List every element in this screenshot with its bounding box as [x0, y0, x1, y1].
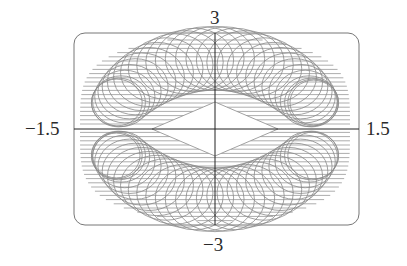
x-max-label: 1.5	[366, 119, 390, 138]
y-max-label: 3	[210, 8, 220, 27]
x-min-label: −1.5	[25, 119, 59, 138]
chart-plot-area	[0, 0, 407, 266]
y-min-label: −3	[203, 235, 223, 254]
